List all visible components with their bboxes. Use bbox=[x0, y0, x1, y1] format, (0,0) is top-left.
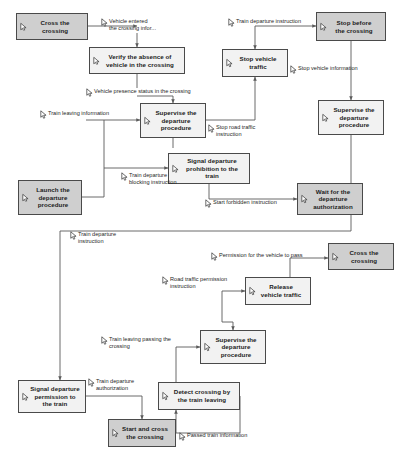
cursor-arrow-icon bbox=[162, 276, 170, 285]
node-label: Supervise thedepartureprocedure bbox=[333, 106, 374, 129]
edge-label-road-traffic-permission: Road traffic permissioninstruction bbox=[162, 276, 227, 290]
edge-label-passed-train-information: Passed train information bbox=[179, 432, 247, 439]
node-wait-for-departure-auth[interactable]: Wait for thedepartureauthorization bbox=[297, 183, 363, 215]
edge-label-text: Start forbidden instruction bbox=[213, 199, 277, 205]
edge-label-train-leaving-information: Train leaving information bbox=[40, 110, 109, 117]
node-cross-the-crossing-bottom[interactable]: Cross thecrossing bbox=[328, 243, 394, 270]
edge-label-text: Stop road trafficinstruction bbox=[216, 124, 255, 137]
node-start-and-cross-the-crossing[interactable]: Start and crossthe crossing bbox=[108, 419, 176, 447]
edge-label-stop-road-traffic-instruction: Stop road trafficinstruction bbox=[208, 124, 255, 138]
node-label: Start and crossthe crossing bbox=[122, 425, 168, 440]
node-label: Stop beforethe crossing bbox=[335, 19, 372, 34]
node-label: Supervise thedepartureprocedure bbox=[155, 109, 196, 132]
edge-label-train-departure-authorization: Train departureauthorization bbox=[88, 378, 134, 392]
node-detect-crossing-by-train[interactable]: Detect crossing bythe train leaving bbox=[158, 382, 240, 410]
cursor-arrow-icon bbox=[70, 231, 78, 240]
node-launch-departure-procedure[interactable]: Launch thedepartureprocedure bbox=[18, 180, 82, 215]
node-label: Supervise thedepartureprocedure bbox=[215, 336, 256, 359]
node-label: Detect crossing bythe train leaving bbox=[174, 388, 230, 403]
cursor-arrow-icon bbox=[205, 199, 213, 208]
node-label: Releasevehicle traffic bbox=[261, 283, 302, 298]
edge-label-text: Train departure instruction bbox=[236, 18, 301, 24]
cursor-arrow-icon bbox=[332, 252, 340, 261]
node-signal-departure-permission[interactable]: Signal departurepermission tothe train bbox=[18, 380, 86, 413]
edge-label-text: Road traffic permissioninstruction bbox=[170, 276, 227, 289]
edge-label-train-departure-blocking: Train departureblocking instruction bbox=[121, 172, 177, 186]
edge-label-text: Vehicle presence status in the crossing bbox=[94, 88, 191, 94]
cursor-arrow-icon bbox=[208, 124, 216, 133]
cursor-arrow-icon bbox=[249, 287, 257, 296]
edge-label-vehicle-presence-status: Vehicle presence status in the crossing bbox=[86, 88, 191, 95]
cursor-arrow-icon bbox=[101, 336, 109, 345]
node-signal-departure-prohibition[interactable]: Signal departureprohibition to thetrain bbox=[168, 153, 250, 184]
edge-label-text: Passed train information bbox=[187, 432, 247, 438]
edge-label-train-departure-instruction-top: Train departure instruction bbox=[228, 18, 301, 25]
cursor-arrow-icon bbox=[22, 392, 30, 401]
edge-label-train-leaving-passing-crossing: Train leaving passing thecrossing bbox=[101, 336, 171, 350]
node-label: Launch thedepartureprocedure bbox=[36, 186, 70, 209]
cursor-arrow-icon bbox=[93, 56, 101, 65]
node-stop-before-the-crossing[interactable]: Stop beforethe crossing bbox=[316, 12, 386, 41]
cursor-arrow-icon bbox=[290, 65, 298, 74]
cursor-arrow-icon bbox=[320, 22, 328, 31]
node-label: Wait for thedepartureauthorization bbox=[313, 188, 353, 211]
diagram-canvas: Cross thecrossingVerify the absence ofve… bbox=[0, 0, 398, 463]
node-label: Stop vehicletraffic bbox=[239, 55, 276, 70]
edge-label-start-forbidden-instruction: Start forbidden instruction bbox=[205, 199, 277, 206]
node-supervise-departure-bottom[interactable]: Supervise thedepartureprocedure bbox=[200, 330, 266, 364]
node-label: Verify the absence ofvehicle in the cros… bbox=[106, 53, 174, 68]
node-label: Signal departureprohibition to thetrain bbox=[186, 157, 238, 180]
cursor-arrow-icon bbox=[144, 116, 152, 125]
cursor-arrow-icon bbox=[112, 429, 120, 438]
edge-label-train-departure-instruction-mid: Train departureinstruction bbox=[70, 231, 116, 245]
edge-label-text: Train departureauthorization bbox=[96, 378, 134, 391]
edge-label-text: Train departureinstruction bbox=[78, 231, 116, 244]
cursor-arrow-icon bbox=[121, 172, 129, 181]
cursor-arrow-icon bbox=[301, 195, 309, 204]
edge-label-text: Train departureblocking instruction bbox=[129, 172, 177, 185]
node-cross-the-crossing-top[interactable]: Cross thecrossing bbox=[16, 13, 88, 40]
cursor-arrow-icon bbox=[211, 252, 219, 261]
cursor-arrow-icon bbox=[322, 113, 330, 122]
node-supervise-departure-right[interactable]: Supervise thedepartureprocedure bbox=[318, 100, 384, 135]
cursor-arrow-icon bbox=[179, 432, 187, 441]
edge-label-text: Permission for the vehicle to pass bbox=[219, 252, 303, 258]
edge-label-text: Train leaving information bbox=[48, 110, 109, 116]
edge-label-vehicle-entered-crossing-info: Vehicle enteredthe crossing infor... bbox=[101, 18, 156, 32]
cursor-arrow-icon bbox=[228, 18, 236, 27]
cursor-arrow-icon bbox=[162, 392, 170, 401]
cursor-arrow-icon bbox=[20, 22, 28, 31]
edge-label-text: Stop vehicle information bbox=[298, 65, 358, 71]
cursor-arrow-icon bbox=[86, 88, 94, 97]
node-supervise-departure-left[interactable]: Supervise thedepartureprocedure bbox=[140, 103, 206, 138]
node-stop-vehicle-traffic[interactable]: Stop vehicletraffic bbox=[222, 49, 288, 77]
cursor-arrow-icon bbox=[22, 193, 30, 202]
edge-label-stop-vehicle-information: Stop vehicle information bbox=[290, 65, 358, 72]
node-verify-absence-of-vehicle[interactable]: Verify the absence ofvehicle in the cros… bbox=[89, 47, 185, 74]
node-label: Cross thecrossing bbox=[41, 19, 70, 34]
node-release-vehicle-traffic[interactable]: Releasevehicle traffic bbox=[245, 277, 311, 305]
node-label: Cross thecrossing bbox=[350, 249, 379, 264]
cursor-arrow-icon bbox=[101, 18, 109, 27]
edge-label-permission-for-vehicle-to-pass: Permission for the vehicle to pass bbox=[211, 252, 303, 259]
node-label: Signal departurepermission tothe train bbox=[30, 385, 80, 408]
edge-label-text: Vehicle enteredthe crossing infor... bbox=[109, 18, 156, 31]
cursor-arrow-icon bbox=[40, 110, 48, 119]
cursor-arrow-icon bbox=[88, 378, 96, 387]
edge-label-text: Train leaving passing thecrossing bbox=[109, 336, 171, 349]
cursor-arrow-icon bbox=[204, 343, 212, 352]
cursor-arrow-icon bbox=[226, 59, 234, 68]
